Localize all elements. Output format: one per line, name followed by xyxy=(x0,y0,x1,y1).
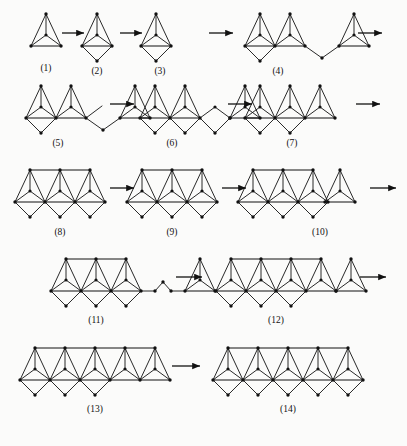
graph-layer xyxy=(13,12,370,396)
figure-5 xyxy=(24,84,151,134)
figure-label-10: (10) xyxy=(312,227,328,238)
figure-label-12: (12) xyxy=(268,315,284,326)
figure-11 xyxy=(49,257,216,307)
figure-7 xyxy=(243,84,336,134)
figure-4 xyxy=(243,12,370,62)
figure-12 xyxy=(214,257,367,307)
figure-label-8: (8) xyxy=(54,227,65,238)
figure-label-11: (11) xyxy=(88,315,103,326)
figure-label-6: (6) xyxy=(166,138,177,149)
figure-label-1: (1) xyxy=(40,63,51,74)
figure-label-2: (2) xyxy=(91,66,102,77)
figure-8 xyxy=(13,168,106,218)
figure-10 xyxy=(236,168,356,218)
figure-2 xyxy=(80,12,113,62)
figure-1 xyxy=(29,12,62,47)
figure-label-13: (13) xyxy=(87,404,103,415)
figure-label-4: (4) xyxy=(272,66,283,77)
figure-label-9: (9) xyxy=(166,227,177,238)
figure-label-5: (5) xyxy=(52,138,63,149)
figure-6 xyxy=(138,84,261,134)
figure-label-3: (3) xyxy=(154,66,165,77)
figure-13 xyxy=(18,346,171,396)
figure-14 xyxy=(211,346,364,396)
figure-3 xyxy=(139,12,172,62)
figure-label-7: (7) xyxy=(286,138,297,149)
figure-label-14: (14) xyxy=(280,404,296,415)
figure-canvas: (1)(2)(3)(4)(5)(6)(7)(8)(9)(10)(11)(12)(… xyxy=(0,0,407,446)
arrow-layer xyxy=(62,33,396,366)
figure-9 xyxy=(125,168,218,218)
